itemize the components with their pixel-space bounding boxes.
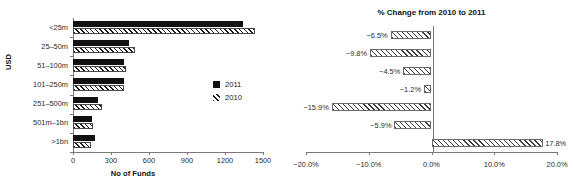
left-category-label: >1bn [0, 138, 68, 145]
change-bar [424, 85, 432, 93]
right-x-tick-mark [369, 152, 370, 155]
right-x-tick-label: 10.0% [469, 161, 519, 168]
left-category-label: <25m [0, 24, 68, 31]
left-x-tick-label: 300 [91, 157, 131, 164]
left-category-label: 251–500m [0, 100, 68, 107]
right-chart-panel: % Change from 2010 to 2011 −6.5%−9.8%−4.… [290, 0, 573, 194]
left-x-tick-label: 600 [129, 157, 169, 164]
right-x-tick-label: 0.0% [407, 161, 457, 168]
change-bar-label: −6.5% [359, 32, 388, 39]
left-x-tick-label: 1200 [205, 157, 245, 164]
left-x-tick-label: 0 [53, 157, 93, 164]
change-bar [332, 103, 432, 111]
change-bar-label: −1.2% [392, 86, 421, 93]
x-tick-mark [263, 152, 264, 155]
y-tick-mark [70, 95, 73, 96]
legend-label-2010: 2010 [225, 94, 242, 102]
left-chart-panel: USD <25m25–50m51–100m101–250m251–500m501… [0, 0, 290, 194]
left-category-label: 101–250m [0, 81, 68, 88]
x-tick-mark [73, 152, 74, 155]
y-tick-mark [70, 75, 73, 76]
bar-2010 [73, 66, 126, 72]
bar-2011 [73, 78, 124, 84]
x-tick-mark [111, 152, 112, 155]
y-tick-mark [70, 56, 73, 57]
change-bar-label: −15.9% [300, 104, 329, 111]
legend-swatch-solid-icon [213, 81, 220, 88]
bar-2010 [73, 28, 255, 34]
right-x-tick-label: 20.0% [532, 161, 573, 168]
y-tick-mark [70, 114, 73, 115]
bar-2011 [73, 135, 95, 141]
x-tick-mark [225, 152, 226, 155]
bar-2011 [73, 21, 243, 27]
x-tick-mark [149, 152, 150, 155]
y-tick-mark [70, 37, 73, 38]
change-bar-label: −5.9% [362, 122, 391, 129]
right-x-tick-label: −10.0% [344, 161, 394, 168]
bar-2011 [73, 116, 92, 122]
chart-figure: USD <25m25–50m51–100m101–250m251–500m501… [0, 0, 573, 194]
right-x-tick-mark [306, 152, 307, 155]
change-bar [403, 67, 431, 75]
bar-2010 [73, 123, 93, 129]
legend-swatch-hatched-icon [213, 94, 220, 101]
legend-label-2011: 2011 [225, 81, 241, 89]
right-x-tick-mark [557, 152, 558, 155]
bar-2010 [73, 47, 135, 53]
change-bar [370, 49, 431, 57]
left-category-label: 501m–1bn [0, 119, 68, 126]
change-bar-label: −4.5% [371, 68, 400, 75]
right-x-tick-mark [432, 152, 433, 155]
right-x-tick-mark [494, 152, 495, 155]
left-x-tick-label: 1500 [243, 157, 283, 164]
right-zero-axis-line [433, 26, 434, 152]
left-category-label: 51–100m [0, 62, 68, 69]
change-bar [432, 139, 544, 147]
right-chart-title: % Change from 2010 to 2011 [290, 8, 573, 17]
bar-2011 [73, 59, 124, 65]
change-bar [391, 31, 432, 39]
right-x-tick-label: −20.0% [281, 161, 331, 168]
left-x-tick-label: 900 [167, 157, 207, 164]
left-x-axis-title: No of Funds [111, 170, 155, 178]
x-tick-mark [187, 152, 188, 155]
bar-2010 [73, 142, 91, 148]
bar-2011 [73, 97, 98, 103]
bar-2010 [73, 85, 124, 91]
change-bar [394, 121, 431, 129]
change-bar-label: 17.8% [545, 140, 566, 147]
bar-2011 [73, 40, 129, 46]
left-x-axis-line [73, 152, 264, 153]
y-tick-mark [70, 133, 73, 134]
change-bar-label: −9.8% [338, 50, 367, 57]
left-category-label: 25–50m [0, 43, 68, 50]
bar-2010 [73, 104, 102, 110]
